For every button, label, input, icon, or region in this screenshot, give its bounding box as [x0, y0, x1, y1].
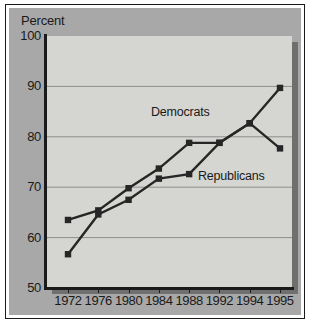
- data-point-marker: [95, 207, 101, 213]
- x-tick-label: 1992: [206, 293, 233, 308]
- x-tick-label: 1972: [54, 293, 81, 308]
- data-point-marker: [156, 165, 162, 171]
- y-tick-label: 70: [27, 179, 41, 194]
- x-tick-mark: [219, 288, 220, 293]
- data-point-marker: [247, 120, 253, 126]
- x-tick-label: 1994: [236, 293, 263, 308]
- data-point-marker: [186, 171, 192, 177]
- x-tick-mark: [250, 288, 251, 293]
- x-tick-mark: [280, 288, 281, 293]
- x-axis-line: [44, 287, 294, 290]
- data-point-marker: [65, 217, 71, 223]
- chart-figure: Percent 1009080706050 197219761980198419…: [0, 0, 310, 325]
- x-tick-mark: [189, 288, 190, 293]
- series-annotation-democrats: Democrats: [151, 105, 210, 119]
- y-tick-label: 90: [27, 78, 41, 93]
- x-tick-mark: [159, 288, 160, 293]
- series-annotation-republicans: Republicans: [198, 169, 265, 183]
- data-point-marker: [277, 85, 283, 91]
- data-point-marker: [216, 140, 222, 146]
- data-point-marker: [125, 197, 131, 203]
- y-tick-label: 100: [20, 28, 41, 43]
- y-tick-label: 60: [27, 230, 41, 245]
- x-tick-label: 1988: [175, 293, 202, 308]
- data-point-marker: [65, 251, 71, 257]
- data-point-marker: [125, 185, 131, 191]
- x-tick-mark: [98, 288, 99, 293]
- data-point-marker: [277, 145, 283, 151]
- x-tick-mark: [129, 288, 130, 293]
- data-point-marker: [156, 175, 162, 181]
- plot-area: [46, 36, 292, 288]
- y-axis-line: [44, 34, 47, 290]
- data-point-marker: [186, 140, 192, 146]
- x-tick-label: 1980: [115, 293, 142, 308]
- y-axis-tick-labels: 1009080706050: [0, 0, 41, 325]
- y-tick-label: 80: [27, 129, 41, 144]
- x-tick-label: 1976: [85, 293, 112, 308]
- x-tick-mark: [68, 288, 69, 293]
- x-tick-label: 1984: [145, 293, 172, 308]
- x-axis-tick-labels: 19721976198019841988199219941995: [0, 293, 310, 315]
- x-tick-label: 1995: [266, 293, 293, 308]
- plot-svg: [46, 36, 292, 288]
